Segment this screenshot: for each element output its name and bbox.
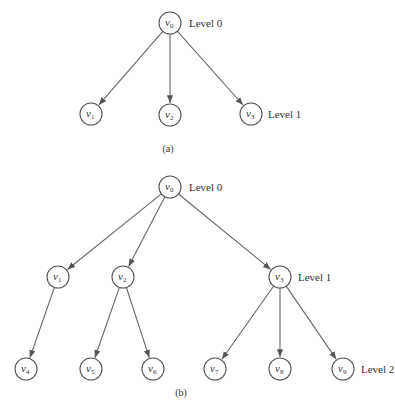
node-v8: v8 — [269, 358, 291, 380]
edge-v2-v6 — [126, 288, 149, 358]
edge-v1-v4 — [30, 287, 55, 357]
level-label: Level 2 — [361, 363, 394, 375]
edge-v0-v2 — [129, 197, 165, 267]
level-label: Level 0 — [189, 17, 223, 29]
node-v0: v0 — [159, 176, 181, 198]
node-v1: v1 — [47, 266, 69, 288]
node-v5: v5 — [80, 358, 102, 380]
node-v2: v2 — [112, 266, 134, 288]
tree-diagrams: v0v1v2v3Level 0Level 1(a) v0v1v2v3v4v5v6… — [0, 0, 395, 407]
edge-v3-v9 — [286, 286, 336, 359]
figure-caption: (a) — [162, 143, 173, 155]
figure-b-tree: v0v1v2v3v4v5v6v7v8v9Level 0Level 1Level … — [15, 176, 394, 399]
level-label: Level 0 — [189, 181, 223, 193]
edge-v3-v7 — [222, 286, 274, 359]
node-v4: v4 — [15, 358, 37, 380]
node-v6: v6 — [142, 358, 164, 380]
edge-v0-v3 — [179, 194, 271, 269]
edge-v0-v1 — [99, 31, 163, 105]
figure-caption: (b) — [175, 387, 187, 399]
node-v2: v2 — [159, 104, 181, 126]
edge-v0-v3 — [177, 31, 243, 105]
node-v0: v0 — [159, 12, 181, 34]
node-v9: v9 — [332, 358, 354, 380]
node-v3: v3 — [240, 103, 262, 125]
level-label: Level 1 — [268, 108, 301, 120]
node-v1: v1 — [80, 103, 102, 125]
node-v7: v7 — [204, 358, 226, 380]
node-v3: v3 — [269, 266, 291, 288]
level-label: Level 1 — [298, 271, 331, 283]
figure-a-tree: v0v1v2v3Level 0Level 1(a) — [80, 12, 301, 155]
edge-v2-v5 — [95, 287, 120, 357]
